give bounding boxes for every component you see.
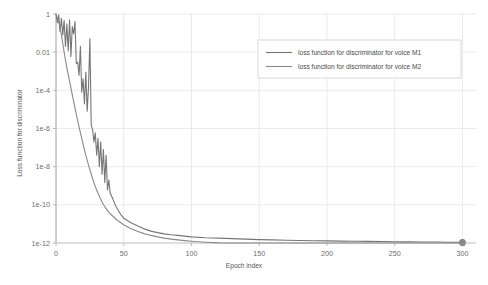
x-tick-label: 150 [253,249,265,258]
y-axis-title: Loss function for discriminator [16,88,23,176]
x-tick-label: 250 [389,249,401,258]
x-tick-label: 50 [120,249,128,258]
x-tick-label: 100 [185,249,197,258]
y-tick-label: 1 [46,10,50,19]
chart-legend[interactable]: loss function for discriminator for voic… [258,40,461,78]
legend-box [258,40,461,78]
line-chart-svg: 10.011e-41e-61e-81e-101e-120501001502002… [0,0,488,285]
y-tick-label: 1e-12 [32,239,50,248]
legend-label-series-2: loss function for discriminator for voic… [298,63,421,70]
x-tick-label: 0 [54,249,58,258]
y-tick-label: 0.01 [36,48,50,57]
y-tick-label: 1e-8 [36,162,50,171]
y-tick-label: 1e-10 [32,200,50,209]
x-axis-title: Epoch index [226,262,263,270]
chart-figure: 10.011e-41e-61e-81e-101e-120501001502002… [0,0,488,285]
legend-label-series-1: loss function for discriminator for voic… [298,49,421,56]
x-tick-label: 300 [456,249,468,258]
y-tick-label: 1e-6 [36,124,50,133]
y-tick-label: 1e-4 [36,86,50,95]
x-tick-label: 200 [321,249,333,258]
series-endpoint-marker-2 [459,240,465,246]
